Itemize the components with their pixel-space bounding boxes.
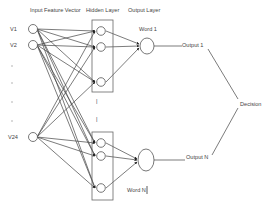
output-layer: Word 1 Output 1 Output N Word N [127, 26, 208, 194]
input-node-v2 [29, 41, 38, 50]
decision: Decision [208, 49, 261, 155]
input-node-v24 [29, 133, 38, 142]
header-hidden-layer: Hidden Layer [86, 7, 119, 13]
hidden-to-output-edges [106, 31, 139, 188]
ellipsis-dot [11, 65, 12, 66]
input-label-v2: V2 [10, 42, 17, 48]
decision-label: Decision [240, 101, 261, 107]
ellipsis-dot [11, 101, 12, 102]
hidden-ellipsis: | [96, 98, 97, 104]
neural-network-diagram: Input Feature Vector Hidden Layer Output… [0, 0, 272, 211]
ellipsis-dot [11, 82, 12, 83]
output-node-word-n [138, 149, 154, 171]
hidden-node [97, 139, 106, 148]
input-label-v24: V24 [8, 134, 18, 140]
input-to-hidden-edges [37, 29, 95, 188]
hidden-ellipsis: | [96, 116, 97, 122]
output-node-word-1 [140, 38, 154, 54]
word-n-label: Word N [127, 187, 146, 193]
hidden-node [97, 184, 106, 193]
decision-line-bottom [212, 108, 238, 155]
header-input-feature-vector: Input Feature Vector [30, 7, 81, 13]
hidden-node [97, 43, 106, 52]
hidden-node [97, 78, 106, 87]
hidden-node [97, 27, 106, 36]
decision-line-top [208, 49, 238, 99]
input-node-v1 [29, 25, 38, 34]
output-n-label: Output N [186, 154, 208, 160]
input-label-v1: V1 [10, 26, 17, 32]
output-1-label: Output 1 [182, 42, 203, 48]
ellipsis-dot [11, 120, 12, 121]
word-1-label: Word 1 [139, 26, 157, 32]
hidden-node [97, 152, 106, 161]
input-layer: V1 V2 V24 [8, 25, 38, 142]
header-output-layer: Output Layer [128, 7, 160, 13]
